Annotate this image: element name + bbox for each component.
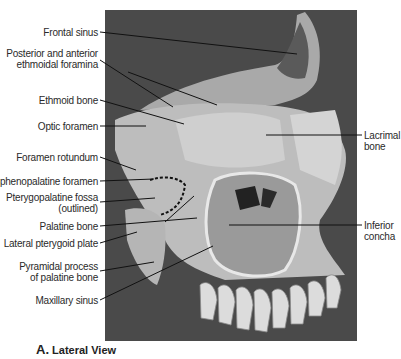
label-sphenopalatine-foramen: Sphenopalatine foramen bbox=[0, 176, 98, 187]
label-text: (outlined) bbox=[58, 203, 98, 214]
label-frontal-sinus: Frontal sinus bbox=[43, 27, 98, 38]
label-text: Inferior bbox=[364, 220, 394, 231]
label-ethmoid-bone: Ethmoid bone bbox=[39, 95, 98, 106]
label-maxillary-sinus: Maxillary sinus bbox=[35, 295, 98, 306]
label-text: Ethmoid bone bbox=[39, 95, 98, 106]
label-text: Palatine bone bbox=[39, 221, 98, 232]
label-text: Lacrimal bbox=[364, 130, 400, 141]
label-palatine-bone: Palatine bone bbox=[39, 221, 98, 232]
label-text: Posterior and anterior bbox=[6, 48, 98, 59]
label-pterygopalatine-fossa: Pterygopalatine fossa(outlined) bbox=[6, 192, 98, 214]
label-optic-foramen: Optic foramen bbox=[38, 121, 98, 132]
label-ethmoidal-foramina: Posterior and anteriorethmoidal foramina bbox=[6, 48, 98, 70]
skull-lateral-photo bbox=[105, 10, 357, 341]
label-foramen-rotundum: Foramen rotundum bbox=[16, 152, 98, 163]
label-lacrimal-bone: Lacrimalbone bbox=[364, 130, 400, 152]
label-pyramidal-process: Pyramidal processof palatine bone bbox=[19, 261, 98, 283]
label-text: concha bbox=[364, 231, 395, 242]
label-text: Frontal sinus bbox=[43, 27, 98, 38]
label-text: Optic foramen bbox=[38, 121, 98, 132]
label-text: Sphenopalatine foramen bbox=[0, 176, 98, 187]
label-text: Pterygopalatine fossa bbox=[6, 192, 98, 203]
label-text: ethmoidal foramina bbox=[17, 59, 98, 70]
label-lateral-pterygoid-plate: Lateral pterygoid plate bbox=[4, 238, 98, 249]
label-text: Foramen rotundum bbox=[16, 152, 98, 163]
label-inferior-concha: Inferiorconcha bbox=[364, 220, 395, 242]
label-text: bone bbox=[364, 141, 385, 152]
label-text: Lateral pterygoid plate bbox=[4, 238, 98, 249]
caption-letter: A. bbox=[36, 342, 49, 357]
skull-illustration bbox=[105, 10, 357, 341]
label-text: Pyramidal process bbox=[19, 261, 98, 272]
figure-caption: A. Lateral View bbox=[36, 342, 116, 357]
label-text: Maxillary sinus bbox=[35, 295, 98, 306]
label-text: of palatine bone bbox=[30, 272, 98, 283]
caption-text: Lateral View bbox=[52, 344, 116, 356]
